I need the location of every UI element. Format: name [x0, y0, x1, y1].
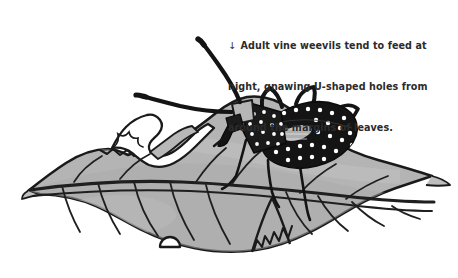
figure-root: ↓ Adult vine weevils tend to feed at nig…: [0, 0, 458, 278]
caption-block: ↓ Adult vine weevils tend to feed at nig…: [228, 12, 446, 162]
weevil-antenna-upper-club: [198, 39, 204, 45]
weevil-antenna-lower: [146, 97, 232, 112]
caption-line-1-text: Adult vine weevils tend to feed at: [241, 40, 427, 51]
caption-line-3: around the margins of leaves.: [228, 121, 446, 135]
weevil-antenna-lower-club: [136, 95, 146, 97]
u-shaped-feeding-hole-small: [160, 237, 180, 247]
caption-line-1: ↓ Adult vine weevils tend to feed at: [228, 39, 446, 53]
caption-line-2: night, gnawing U-shaped holes from: [228, 80, 446, 94]
down-arrow-icon: ↓: [228, 40, 237, 51]
weevil-antennae: [136, 39, 240, 112]
